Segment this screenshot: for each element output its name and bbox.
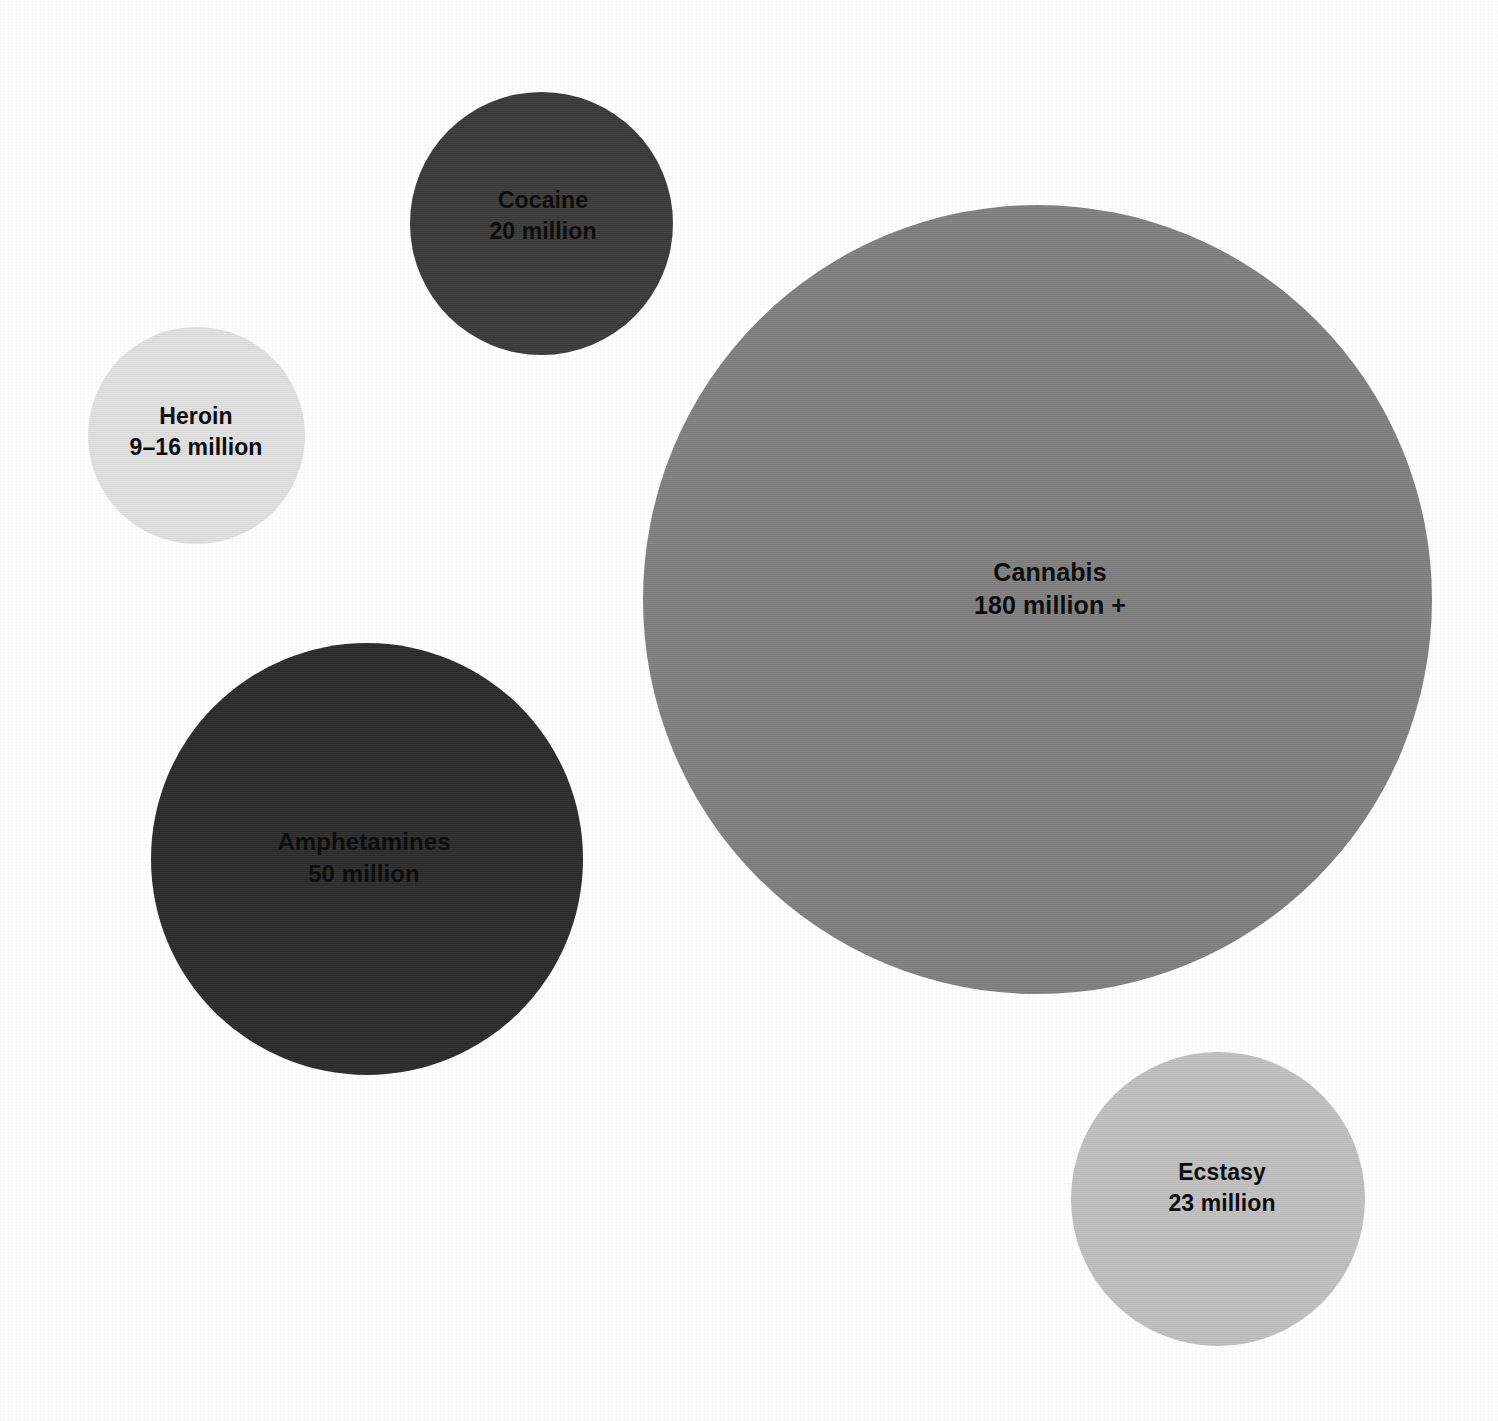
bubble-label-ecstasy: Ecstasy 23 million (1168, 1157, 1275, 1218)
bubble-name-cocaine: Cocaine (489, 185, 596, 216)
bubble-label-heroin: Heroin 9–16 million (130, 401, 263, 462)
bubble-value-heroin: 9–16 million (130, 432, 263, 463)
bubble-value-cannabis: 180 million + (974, 589, 1126, 622)
bubble-label-amphetamines: Amphetamines 50 million (277, 826, 450, 890)
bubble-name-heroin: Heroin (130, 401, 263, 432)
bubble-chart-canvas: Heroin 9–16 million Cocaine 20 million C… (0, 0, 1498, 1421)
bubble-value-amphetamines: 50 million (277, 858, 450, 890)
bubble-value-cocaine: 20 million (489, 216, 596, 247)
bubble-name-ecstasy: Ecstasy (1168, 1157, 1275, 1188)
bubble-name-cannabis: Cannabis (974, 556, 1126, 589)
bubble-label-cocaine: Cocaine 20 million (489, 185, 596, 246)
bubble-label-cannabis: Cannabis 180 million + (974, 556, 1126, 623)
bubble-name-amphetamines: Amphetamines (277, 826, 450, 858)
bubble-value-ecstasy: 23 million (1168, 1188, 1275, 1219)
